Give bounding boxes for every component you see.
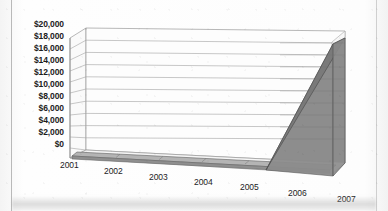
x-tick-label: 2005 xyxy=(240,182,259,192)
y-tick-label: $20,000 xyxy=(18,19,64,29)
chart-container: $20,000 $18,000 $16,000 $14,000 $12,000 … xyxy=(0,0,388,211)
scan-artifact xyxy=(12,196,376,211)
x-tick-label: 2004 xyxy=(194,177,213,187)
y-tick-label: $0 xyxy=(18,139,64,149)
x-tick-label: 2003 xyxy=(149,172,168,182)
y-tick-label: $12,000 xyxy=(18,67,64,77)
y-tick-label: $8,000 xyxy=(18,91,64,101)
series-end-cap xyxy=(333,38,345,176)
x-tick-label: 2002 xyxy=(104,166,123,176)
y-tick-label: $18,000 xyxy=(18,31,64,41)
y-tick-label: $2,000 xyxy=(18,127,64,137)
y-tick-label: $10,000 xyxy=(18,79,64,89)
y-tick-label: $4,000 xyxy=(18,115,64,125)
y-tick-label: $6,000 xyxy=(18,103,64,113)
x-tick-label: 2001 xyxy=(60,160,79,170)
y-tick-label: $16,000 xyxy=(18,43,64,53)
y-tick-label: $14,000 xyxy=(18,55,64,65)
